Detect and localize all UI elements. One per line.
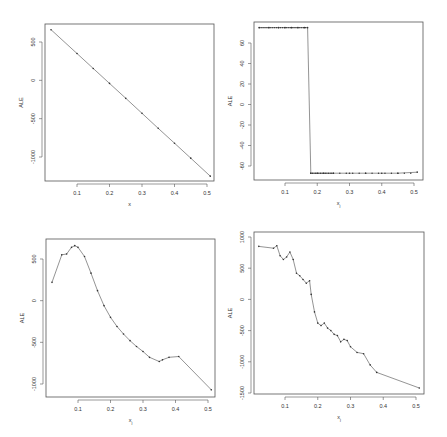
data-point [259,27,260,28]
data-point [416,171,418,173]
data-point [174,142,176,144]
data-point [51,282,53,284]
y-tick-label: 0 [31,299,37,302]
y-tick-label: -1000 [239,355,245,369]
x-tick-label: 0.5 [412,403,420,409]
data-point [266,27,267,28]
plot-panel-bottom-right: 0.10.20.30.40.510005000-500-1000-1500xjA… [227,231,424,422]
data-point [66,253,68,255]
data-point [315,172,316,173]
x-tick-label: 0.4 [172,406,180,412]
data-point [296,272,298,274]
data-point [103,305,105,307]
data-point [129,340,131,342]
data-point [264,27,265,28]
data-point [289,251,291,253]
data-point [369,364,371,366]
x-tick-label: 0.1 [73,190,81,196]
data-point [320,325,322,327]
y-tick-label: -500 [31,337,37,348]
data-point [168,357,170,359]
data-point [352,172,353,173]
data-point [284,27,285,28]
data-point [384,172,385,173]
x-axis-label: x [128,201,131,207]
x-tick-label: 0.3 [347,403,355,409]
data-point [190,157,192,159]
data-point [323,172,324,173]
data-point [84,256,86,258]
x-tick-label: 0.3 [138,190,146,196]
data-point [321,172,322,173]
y-tick-label: -500 [239,325,245,336]
y-tick-label: 40 [239,60,245,66]
data-point [260,27,261,28]
data-point [381,172,383,174]
data-point [312,172,313,173]
y-tick-label: -60 [239,162,245,170]
data-point [331,172,332,173]
data-point [378,172,379,173]
data-point [258,246,260,248]
x-tick-label: 0.2 [107,406,115,412]
y-axis-label: ALE [227,307,233,318]
data-point [97,290,99,292]
data-point [337,335,339,337]
data-point [310,294,312,296]
plot-panel-top-right: 0.10.20.30.40.56040200-20-40-60xjALE [227,22,423,208]
data-point [297,27,298,28]
data-point [262,27,263,28]
data-point [391,172,392,173]
data-point [157,127,159,129]
x-tick-label: 0.3 [139,406,147,412]
plot-frame [254,232,424,394]
data-point [286,27,287,28]
data-point [209,175,211,177]
y-tick-label: 0 [239,298,245,301]
data-point [318,172,319,173]
data-point [280,27,281,28]
data-point [328,172,329,173]
data-point [136,346,138,348]
x-tick-label: 0.5 [410,189,418,195]
y-tick-label: -1000 [30,150,36,164]
x-tick-label: 0.5 [204,406,212,412]
data-point [326,172,327,173]
ale-curve [259,246,420,388]
data-point [305,282,307,284]
data-point [404,172,405,173]
data-point [303,27,304,28]
data-point [125,98,127,100]
x-axis-label: xj [337,414,341,422]
data-point [292,259,294,261]
data-point [116,326,118,328]
data-point [282,27,283,28]
data-point [410,172,411,173]
data-point [324,322,326,324]
data-point [305,27,306,28]
x-tick-label: 0.2 [106,190,114,196]
data-point [310,172,311,173]
x-tick-label: 0.3 [346,189,354,195]
data-point [339,172,340,173]
data-point [90,272,92,274]
plot-panel-bottom-left: 0.10.20.30.40.55000-500-1000xjALE [19,239,215,425]
data-point [71,247,73,249]
data-point [320,172,321,173]
y-tick-label: 0 [30,79,36,82]
x-tick-label: 0.4 [379,403,387,409]
data-point [141,113,143,115]
data-point [356,352,358,354]
plot-frame [254,22,423,180]
data-point [346,340,348,342]
data-point [330,330,332,332]
data-point [346,172,347,173]
data-point [314,311,316,313]
y-tick-label: -500 [30,113,36,124]
y-tick-label: 500 [30,37,36,46]
x-tick-label: 0.4 [378,189,386,195]
data-point [363,353,365,355]
data-point [109,83,111,85]
data-point [358,172,359,173]
data-point [333,172,334,173]
